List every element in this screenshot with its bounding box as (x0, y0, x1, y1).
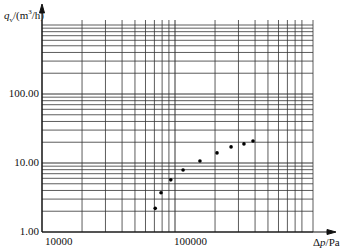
log-log-chart (0, 0, 345, 251)
data-point (215, 151, 219, 155)
x-tick-10000: 10000 (45, 236, 73, 247)
x-tick-100000: 100000 (174, 236, 207, 247)
grid-lines (42, 20, 313, 232)
data-point (181, 168, 185, 172)
y-tick-1: 1.00 (3, 226, 39, 237)
axes (40, 4, 337, 235)
data-point (251, 139, 255, 143)
data-point (229, 145, 233, 149)
y-tick-10: 10.00 (3, 157, 39, 168)
x-axis-title: Δp/Pa (313, 237, 340, 248)
y-tick-100: 100.00 (3, 88, 39, 99)
data-point (153, 207, 157, 211)
y-axis-title: qv/(m3/h) (4, 7, 44, 26)
data-point (159, 191, 163, 195)
x-axis-arrow-icon (327, 230, 336, 235)
data-point (198, 159, 202, 163)
data-point (169, 178, 173, 182)
data-point (242, 142, 246, 146)
